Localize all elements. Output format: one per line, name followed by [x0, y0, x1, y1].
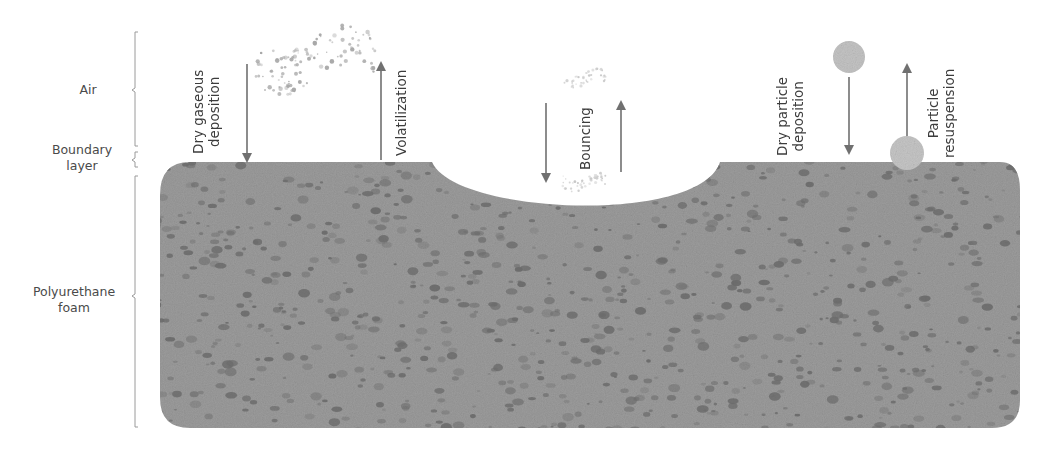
foam-bracket: [132, 176, 138, 427]
foam-label-line2: foam: [16, 300, 132, 316]
air-bracket: [132, 32, 138, 146]
gas-molecules-icon: [255, 24, 377, 96]
dry-particle-line2: deposition: [790, 77, 806, 156]
layer-brackets: [132, 32, 138, 427]
boundary-label-line1: Boundary: [36, 142, 128, 158]
layer-label-foam: Polyurethane foam: [16, 284, 132, 315]
resuspension-line1: Particle: [925, 69, 941, 158]
polyurethane-foam-block: [149, 150, 1030, 440]
falling-particle-icon: [833, 41, 865, 73]
label-particle-resuspension: Particle resuspension: [925, 69, 957, 158]
volatilization-line1: Volatilization: [393, 70, 409, 156]
label-volatilization: Volatilization: [393, 70, 409, 156]
bouncing-molecules-top-icon: [564, 67, 607, 88]
dry-gaseous-line1: Dry gaseous: [190, 70, 206, 154]
boundary-bracket: [132, 152, 138, 167]
bouncing-molecules-bottom-icon: [562, 172, 607, 193]
resuspension-line2: resuspension: [941, 69, 957, 158]
air-label-text: Air: [79, 82, 96, 97]
diagram-canvas: [0, 0, 1057, 452]
bouncing-line1: Bouncing: [577, 107, 593, 170]
dry-particle-line1: Dry particle: [774, 77, 790, 156]
layer-label-air: Air: [64, 82, 112, 98]
resting-particle-icon: [890, 136, 924, 170]
layer-label-boundary: Boundary layer: [36, 142, 128, 173]
label-dry-particle-deposition: Dry particle deposition: [774, 77, 806, 156]
label-bouncing: Bouncing: [577, 107, 593, 170]
boundary-label-line2: layer: [36, 158, 128, 174]
foam-label-line1: Polyurethane: [16, 284, 132, 300]
dry-gaseous-line2: deposition: [206, 70, 222, 154]
label-dry-gaseous-deposition: Dry gaseous deposition: [190, 70, 222, 154]
